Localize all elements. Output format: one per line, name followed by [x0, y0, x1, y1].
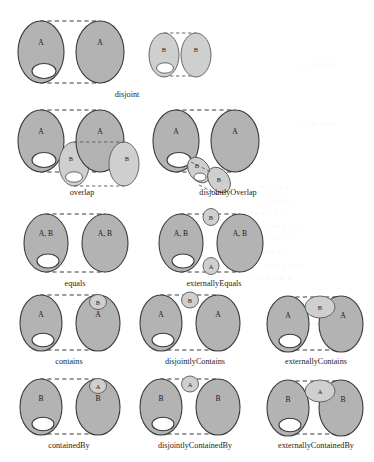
region-label-a: A	[285, 311, 291, 320]
diagram-equals: A, B A, B equals	[24, 214, 128, 288]
region-label-b: B	[215, 394, 220, 403]
region-a-right	[196, 295, 240, 351]
caption-disjoint: disjoint	[115, 90, 140, 99]
satellite-label-a: A	[96, 383, 101, 390]
region-ab-right	[82, 214, 128, 272]
region-label-a: A	[38, 38, 44, 47]
caption-overlap: overlap	[70, 188, 95, 197]
region-b-left-hole	[279, 418, 301, 432]
caption-disjointlyContainedBy: disjointlyContainedBy	[158, 441, 233, 450]
region-b-left-hole	[152, 417, 174, 431]
region-a-left-hole	[279, 334, 301, 348]
region-label-b: B	[285, 395, 290, 404]
caption-disjointlyContains: disjointlyContains	[165, 357, 225, 366]
region-label-a: A	[173, 127, 179, 136]
caption-containedBy: containedBy	[48, 441, 90, 450]
region-label-a: A	[232, 127, 238, 136]
region-label-b: B	[95, 394, 100, 403]
region-ab-right	[217, 214, 263, 272]
satellite-label-a: A	[188, 381, 193, 388]
region-label-ab: A, B	[233, 229, 247, 238]
region-b-right	[196, 379, 240, 435]
region-a-left-hole	[32, 153, 56, 168]
caption-externallyContains: externallyContains	[285, 357, 347, 366]
diagram-externallyEquals: A, B A, B B A externallyEquals	[159, 209, 263, 289]
diagram-disjoint: A A B B disjoint	[18, 21, 211, 99]
region-label-a: A	[215, 310, 221, 319]
region-a-left-hole	[32, 333, 54, 347]
region-a-left-hole	[152, 333, 174, 347]
region-a-right	[211, 110, 259, 172]
region-label-b: B	[38, 394, 43, 403]
caption-externallyContainedBy: externallyContainedBy	[278, 441, 355, 450]
region-b-left-hole	[157, 63, 174, 73]
caption-disjointlyOverlap: disjointlyOverlap	[199, 188, 256, 197]
region-b-right	[109, 142, 139, 186]
diagram-disjointlyContainedBy: B B A disjointlyContainedBy	[140, 376, 240, 450]
region-label-a: A	[38, 127, 44, 136]
region-label-b: B	[194, 46, 198, 53]
caption-externallyEquals: externallyEquals	[186, 279, 241, 288]
region-label-a: A	[158, 310, 164, 319]
region-label-a: A	[340, 311, 346, 320]
region-label-b: B	[69, 155, 73, 162]
caption-equals: equals	[65, 279, 86, 288]
satellite-label-a: A	[209, 263, 214, 270]
region-a-right	[76, 21, 124, 83]
region-label-a: A	[97, 38, 103, 47]
satellite-label-b: B	[188, 297, 192, 304]
diagram-externallyContains: A A B externallyContains	[267, 296, 363, 366]
region-label-b: B	[125, 155, 129, 162]
topology-relations-figure: .fa{fill:#b3b3b3;stroke:#3c3c3c;stroke-w…	[0, 0, 374, 462]
region-label-ab: A, B	[174, 229, 188, 238]
region-b-left-hole	[194, 173, 206, 181]
region-label-ab: A, B	[39, 229, 53, 238]
diagram-containedBy: B B A containedBy	[20, 379, 120, 451]
diagram-externallyContainedBy: B B A externallyContainedBy	[267, 380, 363, 450]
region-a-left-hole	[32, 64, 56, 79]
region-label-a: A	[97, 127, 103, 136]
satellite-label-b: B	[318, 304, 322, 311]
region-b-left-hole	[66, 172, 83, 182]
satellite-label-b: B	[209, 214, 213, 221]
region-label-a: A	[95, 310, 101, 319]
diagram-disjointlyContains: A A B disjointlyContains	[140, 292, 240, 366]
region-b-right	[181, 33, 211, 77]
satellite-label-b: B	[96, 299, 100, 306]
region-ab-left-hole	[172, 254, 194, 268]
region-label-a: A	[38, 310, 44, 319]
satellite-label-a: A	[318, 388, 323, 395]
region-label-b: B	[162, 46, 166, 53]
figure-canvas: a cn r e v b n t l ei sf o t o n e a cr …	[0, 0, 374, 462]
region-label-b: B	[158, 394, 163, 403]
region-label-ab: A, B	[98, 229, 112, 238]
diagram-contains: A A B contains	[20, 295, 120, 367]
region-ab-left-hole	[37, 254, 59, 268]
diagram-disjointlyOverlap: A A B B disjointlyOverlap	[153, 110, 259, 197]
caption-contains: contains	[55, 357, 82, 366]
diagram-overlap: A B A B overlap	[18, 110, 139, 197]
region-label-b: B	[340, 395, 345, 404]
region-label-b: B	[217, 176, 221, 183]
region-b-left-hole	[32, 417, 54, 431]
